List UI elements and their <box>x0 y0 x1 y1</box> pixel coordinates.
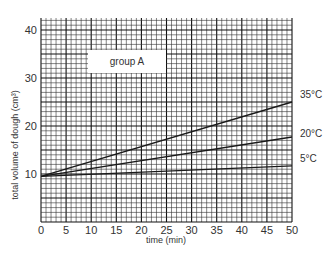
x-tick-label: 0 <box>38 224 44 236</box>
x-tick-label: 50 <box>286 224 298 236</box>
x-tick-label: 15 <box>110 224 122 236</box>
x-tick-label: 40 <box>236 224 248 236</box>
x-tick-label: 45 <box>261 224 273 236</box>
series-labels: 35°C20°C5°C <box>300 89 322 164</box>
series-label: 20°C <box>300 128 322 139</box>
y-axis-label: total volume of dough (cm³) <box>10 90 20 200</box>
x-tick-label: 30 <box>185 224 197 236</box>
grid <box>41 18 292 222</box>
y-tick-label: 30 <box>25 72 37 84</box>
y-tick-label: 10 <box>25 168 37 180</box>
x-tick-label: 10 <box>85 224 97 236</box>
y-tick-label: 40 <box>25 24 37 36</box>
line-chart: group A 35°C20°C5°C 05101520253035404550… <box>0 0 327 254</box>
y-axis-ticks: 10203040 <box>25 24 37 180</box>
series-label: 35°C <box>300 89 322 100</box>
x-axis-label: time (min) <box>146 235 186 245</box>
y-tick-label: 20 <box>25 120 37 132</box>
series-label: 5°C <box>300 153 317 164</box>
x-tick-label: 35 <box>211 224 223 236</box>
group-annotation: group A <box>110 56 145 67</box>
x-tick-label: 5 <box>63 224 69 236</box>
